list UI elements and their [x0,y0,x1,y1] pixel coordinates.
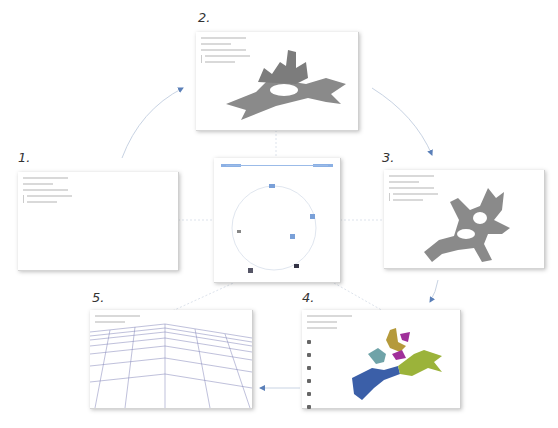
graph-node [290,234,295,239]
panel-step-3 [384,170,545,269]
step-label-1: 1. [18,150,30,165]
graph-node [237,230,241,233]
grey-mesh-model-rotated [384,170,544,268]
panel-step-5 [90,310,253,409]
wireframe-terrain [90,310,252,408]
panel-step-4 [302,310,461,409]
arrow-3-to-4 [430,280,438,302]
graph-node [294,264,299,268]
workflow-graph [214,158,340,282]
panel-center-graph [214,158,341,283]
step-label-4: 4. [302,290,314,305]
arrow-1-to-2 [122,88,183,158]
panel-step-1 [18,172,179,271]
grey-mesh-model [196,32,358,130]
graph-node [310,214,315,219]
graph-node [248,268,253,273]
mini-controls [23,177,83,207]
step-label-2: 2. [198,10,210,25]
segmented-mesh [302,310,460,408]
arrow-2-to-3 [372,88,432,155]
graph-node [269,184,275,188]
step-label-3: 3. [382,150,394,165]
panel-step-2 [196,32,359,131]
step-label-5: 5. [92,290,104,305]
